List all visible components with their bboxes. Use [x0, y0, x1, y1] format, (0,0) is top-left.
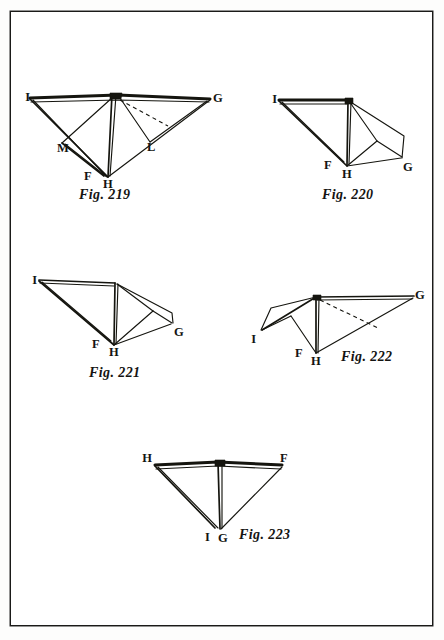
plate-border-frame	[10, 11, 433, 626]
figure-plate: I G M L F H Fig. 219 I	[0, 0, 444, 640]
